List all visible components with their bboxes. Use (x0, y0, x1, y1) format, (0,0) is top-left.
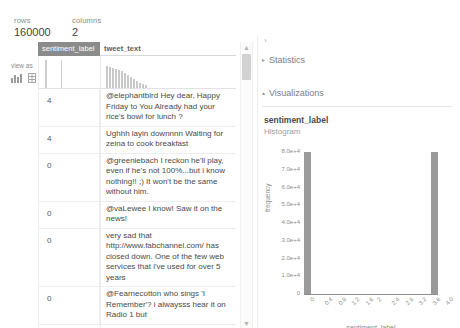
histogram-x-tick-label: 3.2 (418, 296, 428, 306)
columns-value: 2 (72, 26, 101, 39)
histogram-x-tick-label: 2 (376, 296, 383, 303)
grid-header-row: sentiment_label tweet_text (38, 42, 236, 56)
sparkline-bar (121, 71, 123, 88)
section-statistics[interactable]: ▸ Statistics (262, 53, 460, 67)
histogram-x-tick-label: 2.8 (404, 296, 414, 306)
histogram-x-tick-label: 0.4 (324, 296, 334, 306)
rows-label: rows (14, 16, 51, 25)
histogram-y-ticks: 01.0e+42.0e+43.0e+44.0e+45.0e+46.0e+47.0… (270, 138, 300, 298)
grid-vertical-rule-left (38, 56, 39, 328)
cell-sentiment-label: 0 (38, 202, 100, 228)
grid-body: 4@elephantbird Hey dear, Happy Friday to… (38, 89, 236, 325)
scroll-up-arrow-icon[interactable]: ▲ (241, 42, 252, 52)
section-statistics-label: Statistics (269, 55, 305, 65)
chevron-collapsed-icon: ▸ (262, 57, 265, 63)
section-visualizations-label: Visualizations (269, 88, 324, 98)
chevron-right-icon[interactable]: › (262, 36, 460, 46)
sparkline-bar (61, 60, 63, 88)
histogram-chart: frequency 01.0e+42.0e+43.0e+44.0e+45.0e+… (262, 138, 460, 328)
scroll-down-arrow-icon[interactable]: ▼ (241, 318, 252, 328)
histogram-y-tick-label: 2.0e+4 (281, 255, 300, 261)
scrollbar-thumb[interactable] (242, 54, 251, 80)
histogram-x-tick-label: 3.6 (431, 296, 441, 306)
histogram-y-tick-label: 5.0e+4 (281, 201, 300, 207)
histogram-bar (304, 152, 311, 294)
summary-stat-rows: rows 160000 (14, 16, 51, 39)
table-icon[interactable] (28, 73, 36, 83)
histogram-x-tick-label: 0 (309, 296, 316, 303)
histogram-y-tick-label: 1.0e+4 (281, 272, 300, 278)
visualization-title: sentiment_label (262, 115, 460, 125)
histogram-y-tick-label: 4.0e+4 (281, 219, 300, 225)
cell-sentiment-label: 0 (38, 287, 100, 324)
sparkline-bar (127, 75, 129, 88)
bar-chart-icon[interactable] (11, 73, 23, 83)
dataset-summary-header: rows 160000 columns 2 (0, 0, 240, 42)
panel-divider (257, 36, 258, 328)
sparkline-bar (106, 66, 108, 88)
table-row[interactable]: 0very sad that http://www.fabchannel.com… (38, 229, 236, 288)
cell-tweet-text: very sad that http://www.fabchannel.com/… (100, 229, 236, 287)
sparkline-bar (130, 77, 132, 88)
details-side-panel: › ▸ Statistics ▴ Visualizations sentimen… (262, 36, 460, 328)
sparkline-bar (115, 69, 117, 88)
column-header-sentiment-label[interactable]: sentiment_label (38, 42, 100, 56)
cell-sentiment-label: 4 (38, 89, 100, 126)
histogram-x-ticks: 00.40.81.21.622.42.83.23.64.0 (304, 296, 444, 322)
visualization-subtitle: Histogram (262, 127, 460, 136)
table-row[interactable]: 0@vaLewee I know! Saw it on the news! (38, 202, 236, 229)
sparkline-bar (133, 79, 135, 88)
cell-tweet-text: @greeniebach I reckon he'll play, even i… (100, 154, 236, 201)
cell-sentiment-label: 0 (38, 229, 100, 287)
rows-value: 160000 (14, 26, 51, 39)
histogram-bar (431, 152, 438, 294)
histogram-x-tick-label: 4.0 (444, 296, 454, 306)
section-divider (262, 106, 452, 107)
histogram-y-tick-label: 6.0e+4 (281, 184, 300, 190)
histogram-y-tick-label: 3.0e+4 (281, 237, 300, 243)
sparkline-bar (109, 67, 111, 88)
sparkline-bar (139, 83, 141, 88)
sparkline-bar (112, 68, 114, 88)
histogram-x-axis-label: sentiment_label (304, 324, 438, 328)
data-grid[interactable]: sentiment_label tweet_text 4@elephantbir… (38, 42, 236, 328)
sparkline-bar (118, 70, 120, 88)
sparkline-bar (142, 84, 144, 88)
table-row[interactable]: 4Ughhh layin downnnn Waiting for zeina t… (38, 127, 236, 154)
histogram-x-tick-label: 2.4 (391, 296, 401, 306)
sparkline-bar (45, 60, 47, 88)
sparkline-bar (124, 73, 126, 88)
histogram-y-tick-label: 7.0e+4 (281, 166, 300, 172)
columns-label: columns (72, 16, 101, 25)
column-header-tweet-text[interactable]: tweet_text (100, 42, 236, 56)
section-visualizations[interactable]: ▴ Visualizations (262, 86, 460, 100)
table-row[interactable]: 0@greeniebach I reckon he'll play, even … (38, 154, 236, 202)
table-row[interactable]: 0@Fearnecotton who sings 'I Remember'? i… (38, 287, 236, 325)
sparkline-tweet-text (100, 56, 236, 88)
table-row[interactable]: 4@elephantbird Hey dear, Happy Friday to… (38, 89, 236, 127)
cell-sentiment-label: 4 (38, 127, 100, 153)
cell-tweet-text: Ughhh layin downnnn Waiting for zeina to… (100, 127, 236, 153)
cell-tweet-text: @elephantbird Hey dear, Happy Friday to … (100, 89, 236, 126)
sparkline-bar (145, 85, 147, 88)
histogram-x-axis-line (304, 294, 438, 295)
histogram-x-tick-label: 1.2 (351, 296, 361, 306)
chevron-expanded-icon: ▴ (262, 90, 265, 96)
histogram-y-tick-label: 0 (297, 290, 300, 296)
histogram-x-tick-label: 1.6 (364, 296, 374, 306)
grid-vertical-rule-middle (100, 56, 101, 328)
histogram-y-tick-label: 8.0e+4 (281, 148, 300, 154)
cell-tweet-text: @vaLewee I know! Saw it on the news! (100, 202, 236, 228)
cell-tweet-text: @Fearnecotton who sings 'I Remember'? i … (100, 287, 236, 324)
sparkline-bar (136, 81, 138, 88)
sparkline-sentiment-label (38, 56, 100, 88)
grid-sparkline-row (38, 56, 236, 89)
summary-stat-columns: columns 2 (72, 16, 101, 39)
cell-sentiment-label: 0 (38, 154, 100, 201)
grid-vertical-scrollbar[interactable]: ▲ ▼ (240, 42, 253, 328)
histogram-x-tick-label: 0.8 (337, 296, 347, 306)
histogram-plot-area (304, 152, 438, 294)
